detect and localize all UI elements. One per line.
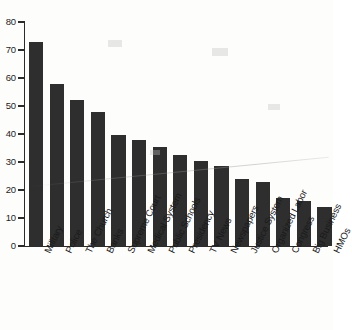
x-label-hmos: HMOs [331,226,352,255]
x-label-police: Police [63,227,84,255]
x-label-military: Military [42,224,65,255]
x-label-banks: Banks [104,227,125,255]
